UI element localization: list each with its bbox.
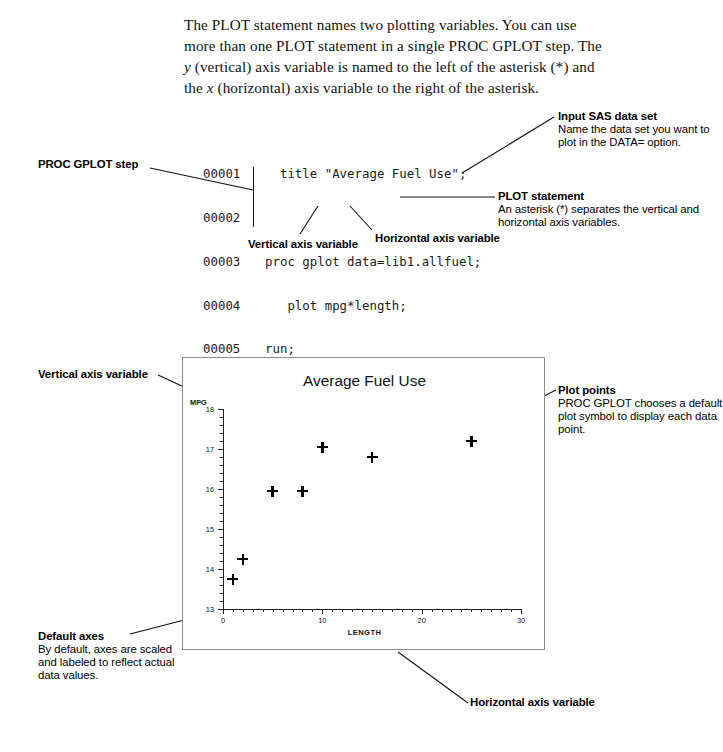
intro-italic-x: x — [207, 79, 214, 96]
line-text: title "Average Fuel Use"; — [265, 166, 466, 181]
x-minor-tick — [412, 609, 413, 612]
plus-icon-vertical — [242, 554, 244, 565]
y-tick-label: 16 — [186, 485, 214, 494]
x-tick — [223, 609, 224, 614]
x-minor-tick — [283, 609, 284, 612]
callout-title: PROC GPLOT step — [38, 158, 138, 171]
code-line: 00004 plot mpg*length; — [203, 299, 481, 314]
x-minor-tick — [501, 609, 502, 612]
x-minor-tick — [273, 609, 274, 612]
callout-chart-vertical-axis-variable: Vertical axis variable — [38, 368, 148, 381]
plus-icon-vertical — [232, 574, 234, 585]
y-minor-tick — [220, 473, 223, 474]
callout-body: Name the data set you want to plot in th… — [558, 123, 718, 149]
data-point — [227, 574, 238, 585]
x-minor-tick — [432, 609, 433, 612]
y-minor-tick — [220, 465, 223, 466]
intro-text-part3: (horizontal) axis variable to the right … — [214, 79, 539, 96]
x-minor-tick — [471, 609, 472, 612]
x-tick — [521, 609, 522, 614]
y-tick-label: 14 — [186, 565, 214, 574]
x-minor-tick — [362, 609, 363, 612]
x-minor-tick — [302, 609, 303, 612]
y-tick — [218, 529, 223, 530]
plus-icon-vertical — [301, 486, 303, 497]
data-point — [297, 486, 308, 497]
callout-title: Horizontal axis variable — [375, 232, 500, 245]
chart-figure: Average Fuel Use MPG LENGTH 131415161718… — [182, 357, 545, 650]
y-minor-tick — [220, 545, 223, 546]
code-line: 00005run; — [203, 342, 481, 357]
x-tick — [322, 609, 323, 614]
x-minor-tick — [402, 609, 403, 612]
x-minor-tick — [233, 609, 234, 612]
callout-body: An asterisk (*) separates the vertical a… — [498, 203, 723, 229]
intro-italic-y: y — [184, 58, 191, 75]
y-tick — [218, 409, 223, 410]
callout-vertical-axis-variable: Vertical axis variable — [248, 238, 358, 251]
y-tick — [218, 489, 223, 490]
y-minor-tick — [220, 601, 223, 602]
y-tick-label: 15 — [186, 525, 214, 534]
data-point — [237, 554, 248, 565]
x-minor-tick — [451, 609, 452, 612]
callout-title: Horizontal axis variable — [470, 696, 595, 709]
y-minor-tick — [220, 513, 223, 514]
intro-text-part1: The PLOT statement names two plotting va… — [184, 16, 602, 54]
y-minor-tick — [220, 481, 223, 482]
y-minor-tick — [220, 417, 223, 418]
line-text: proc gplot data=lib1.allfuel; — [265, 254, 481, 269]
callout-title: Vertical axis variable — [248, 238, 358, 251]
x-tick-label: 10 — [309, 616, 335, 625]
y-minor-tick — [220, 457, 223, 458]
x-minor-tick — [382, 609, 383, 612]
x-minor-tick — [293, 609, 294, 612]
callout-horizontal-axis-variable: Horizontal axis variable — [375, 232, 500, 245]
x-minor-tick — [312, 609, 313, 612]
data-point — [367, 452, 378, 463]
code-line: 00002 — [203, 211, 481, 226]
plot-area: MPG LENGTH 1314151617180102030 — [183, 358, 546, 651]
plus-icon-vertical — [321, 442, 323, 453]
plus-icon-vertical — [371, 452, 373, 463]
x-minor-tick — [243, 609, 244, 612]
x-minor-tick — [392, 609, 393, 612]
x-tick-label: 30 — [508, 616, 534, 625]
line-text: run; — [265, 341, 295, 356]
callout-title: Plot points — [558, 384, 723, 397]
callout-plot-points: Plot points PROC GPLOT chooses a default… — [558, 384, 723, 436]
callout-body: By default, axes are scaled and labeled … — [38, 643, 188, 682]
code-line: 00001 title "Average Fuel Use"; — [203, 167, 481, 182]
code-line: 00003proc gplot data=lib1.allfuel; — [203, 255, 481, 270]
x-minor-tick — [342, 609, 343, 612]
callout-default-axes: Default axes By default, axes are scaled… — [38, 630, 188, 682]
callout-title: PLOT statement — [498, 190, 723, 203]
leader-chart-horizontal-axis-variable — [398, 652, 468, 703]
proc-step-bracket — [253, 167, 254, 227]
callout-plot-statement: PLOT statement An asterisk (*) separates… — [498, 190, 723, 229]
x-minor-tick — [263, 609, 264, 612]
plus-icon-vertical — [470, 436, 472, 447]
callout-title: Vertical axis variable — [38, 368, 148, 381]
y-minor-tick — [220, 585, 223, 586]
line-number: 00002 — [203, 211, 265, 226]
x-tick-label: 20 — [409, 616, 435, 625]
callout-body: PROC GPLOT chooses a default plot symbol… — [558, 397, 723, 436]
y-tick — [218, 569, 223, 570]
y-minor-tick — [220, 593, 223, 594]
plus-icon-vertical — [271, 486, 273, 497]
data-point — [317, 442, 328, 453]
x-minor-tick — [352, 609, 353, 612]
y-tick-label: 18 — [186, 405, 214, 414]
y-minor-tick — [220, 505, 223, 506]
callout-proc-gplot-step: PROC GPLOT step — [38, 158, 138, 171]
y-axis-line — [223, 409, 224, 609]
y-minor-tick — [220, 577, 223, 578]
line-number: 00005 — [203, 342, 265, 357]
x-minor-tick — [253, 609, 254, 612]
y-minor-tick — [220, 425, 223, 426]
callout-title: Input SAS data set — [558, 110, 718, 123]
x-tick — [422, 609, 423, 614]
y-minor-tick — [220, 497, 223, 498]
x-minor-tick — [332, 609, 333, 612]
